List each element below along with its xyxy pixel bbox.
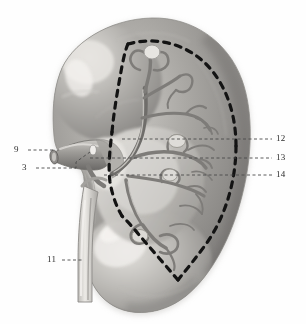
label-11: 11 — [47, 255, 56, 264]
anterior-calyx-cup — [169, 135, 186, 148]
renal-artery-ostium — [90, 145, 97, 155]
label-14: 14 — [276, 170, 286, 179]
superior-calyx-cup — [144, 45, 160, 59]
label-3: 3 — [22, 163, 27, 172]
kidney-figure: 9 3 11 12 13 14 — [0, 0, 306, 324]
renal-vein-lumen-inner — [52, 153, 56, 162]
label-13: 13 — [276, 153, 286, 162]
label-9: 9 — [14, 145, 19, 154]
kidney-illustration — [0, 0, 306, 324]
label-12: 12 — [276, 134, 286, 143]
